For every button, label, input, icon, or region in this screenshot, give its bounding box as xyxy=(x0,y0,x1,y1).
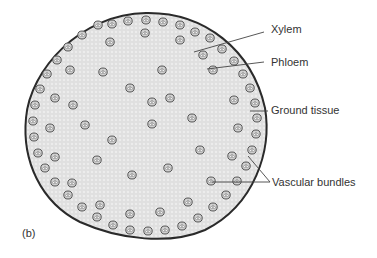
label-phloem: Phloem xyxy=(271,56,308,68)
label-xylem: Xylem xyxy=(271,23,302,35)
label-ground-tissue: Ground tissue xyxy=(271,104,339,116)
stem-outline xyxy=(25,13,266,239)
cross-section-illustration xyxy=(0,0,377,258)
stem-cross-section-figure: Xylem Phloem Ground tissue Vascular bund… xyxy=(0,0,377,258)
panel-label: (b) xyxy=(22,227,35,239)
label-vascular-bundles: Vascular bundles xyxy=(272,176,356,188)
